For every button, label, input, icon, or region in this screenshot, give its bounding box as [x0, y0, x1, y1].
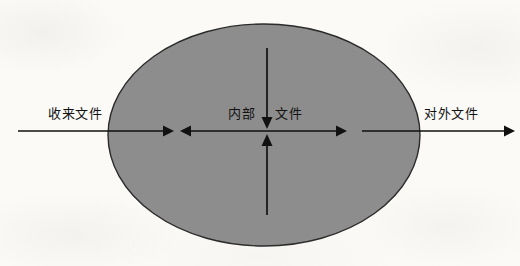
diagram-canvas: 收来文件 内部 文件 对外文件	[0, 0, 520, 266]
incoming-documents-label: 收来文件	[48, 107, 102, 120]
internal-label: 内部	[228, 107, 255, 120]
document-flow-diagram	[0, 0, 520, 266]
organization-boundary-ellipse	[108, 24, 420, 246]
outgoing-documents-label: 对外文件	[424, 107, 478, 120]
document-label: 文件	[275, 107, 302, 120]
